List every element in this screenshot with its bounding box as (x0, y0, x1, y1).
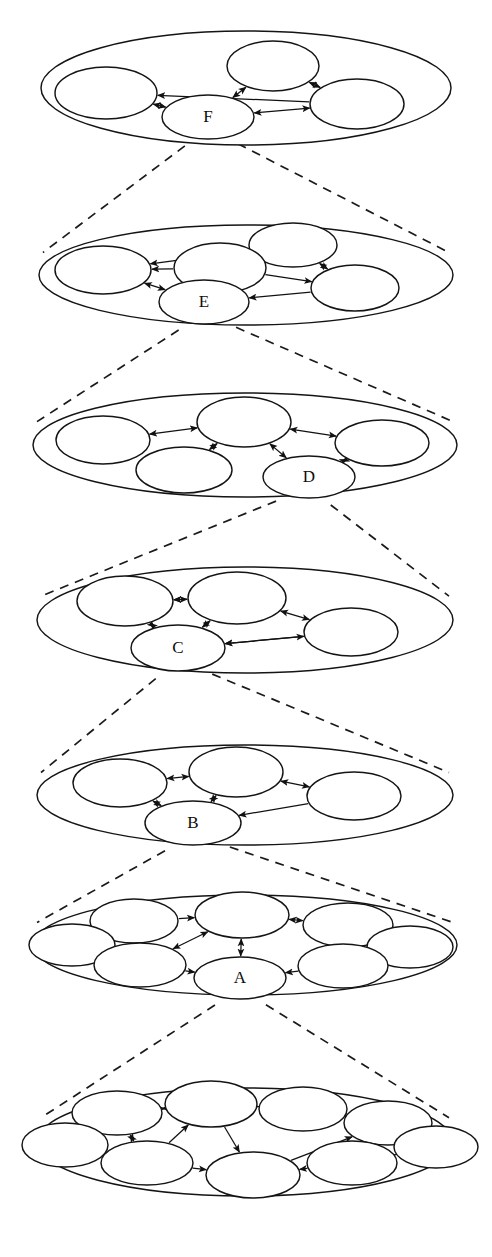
level-group-c: C (37, 567, 453, 673)
node-ellipse[interactable] (307, 1141, 397, 1185)
diagram-canvas: FEDCBA (0, 0, 492, 1257)
node-ellipse[interactable] (55, 67, 157, 119)
graph-edge (241, 939, 242, 956)
node-ellipse-d[interactable] (263, 456, 355, 498)
level-group-e: E (39, 223, 453, 325)
level-group-b: B (37, 745, 453, 845)
node-ellipse[interactable] (307, 772, 401, 820)
node-ellipse[interactable] (259, 1087, 347, 1131)
node-ellipse-f[interactable] (162, 95, 254, 139)
node-ellipse[interactable] (227, 41, 319, 91)
node-ellipse[interactable] (73, 759, 167, 807)
node-ellipse[interactable] (188, 572, 286, 624)
node-ellipse[interactable] (197, 397, 291, 447)
level-group-a: A (29, 892, 457, 999)
node-ellipse[interactable] (22, 1123, 108, 1167)
level-group-f: F (41, 31, 451, 145)
node-ellipse[interactable] (311, 265, 399, 311)
node-ellipse-e[interactable] (159, 280, 249, 324)
node-ellipse[interactable] (298, 944, 388, 988)
node-ellipse[interactable] (55, 246, 151, 294)
node-ellipse-a[interactable] (194, 957, 286, 999)
node-ellipse[interactable] (189, 747, 283, 797)
node-ellipse[interactable] (101, 1141, 193, 1185)
node-ellipse[interactable] (394, 1126, 478, 1168)
node-ellipse[interactable] (77, 576, 173, 626)
hierarchical-graph-diagram: FEDCBA (0, 0, 492, 1257)
node-ellipse[interactable] (136, 447, 232, 493)
node-ellipse[interactable] (195, 892, 289, 938)
levels-layer: FEDCBA (22, 31, 478, 1198)
node-ellipse[interactable] (310, 79, 404, 129)
level-group-base (22, 1081, 478, 1198)
node-ellipse[interactable] (304, 608, 398, 656)
node-ellipse[interactable] (165, 1081, 257, 1127)
node-ellipse[interactable] (56, 416, 150, 464)
node-ellipse[interactable] (206, 1152, 300, 1198)
node-ellipse-b[interactable] (145, 801, 241, 845)
node-ellipse[interactable] (335, 420, 429, 466)
node-ellipse[interactable] (94, 943, 186, 987)
node-ellipse-c[interactable] (131, 625, 225, 671)
graph-edge (179, 918, 195, 919)
level-group-d: D (33, 393, 457, 498)
